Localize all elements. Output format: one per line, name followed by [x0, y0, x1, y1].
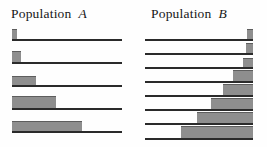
- axis-baseline: [145, 53, 253, 55]
- bar: [12, 121, 82, 131]
- axis-baseline: [145, 123, 253, 125]
- bar: [12, 29, 17, 39]
- bar: [12, 51, 21, 62]
- panel-population-a: PopulationA: [0, 0, 133, 147]
- axis-baseline: [12, 62, 122, 64]
- bar: [223, 84, 253, 95]
- axis-baseline: [145, 39, 253, 41]
- bar: [233, 70, 253, 81]
- axis-baseline: [145, 138, 253, 140]
- bar: [181, 126, 253, 138]
- two-population-bar-figure: PopulationA PopulationB: [0, 0, 267, 147]
- bar: [211, 98, 253, 109]
- axis-baseline: [12, 39, 122, 41]
- bar: [197, 112, 253, 123]
- axis-baseline: [145, 95, 253, 97]
- axis-baseline: [12, 108, 122, 110]
- axis-baseline: [12, 85, 122, 87]
- bar: [12, 76, 36, 85]
- axis-baseline: [12, 131, 122, 133]
- axis-baseline: [145, 81, 253, 83]
- axis-baseline: [145, 67, 253, 69]
- bar: [246, 43, 253, 53]
- panel-a-rows: [0, 0, 133, 147]
- bar: [247, 29, 253, 39]
- panel-b-rows: [133, 0, 267, 147]
- panel-population-b: PopulationB: [133, 0, 267, 147]
- bar: [12, 96, 56, 108]
- axis-baseline: [145, 109, 253, 111]
- bar: [243, 58, 253, 67]
